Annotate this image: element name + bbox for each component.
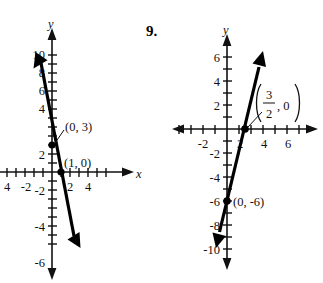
- left-x-tick-neg4: 4: [4, 180, 11, 194]
- right-point-label-three-halves-0: 3 2 , 0: [257, 84, 300, 122]
- right-x-tick-4: 4: [261, 137, 268, 151]
- left-x-tick-2: 2: [67, 180, 73, 194]
- right-point-three-halves-0: [241, 125, 249, 133]
- left-y-tick-4: 4: [39, 102, 46, 116]
- right-y-tick-neg4: -4: [210, 171, 221, 185]
- right-y-tick-4: 4: [214, 75, 221, 89]
- fraction-numerator: 3: [266, 88, 272, 102]
- left-point-0-3: [48, 141, 55, 148]
- left-graph: y x 10 8 6 4 2 -2 -4 -6 4 -2 2 4: [0, 0, 150, 283]
- right-graph-svg: y 6 4 2 -2 -4 -6 -8 -10 -2 2 4 6: [170, 0, 323, 283]
- fraction-rest: , 0: [277, 99, 290, 113]
- right-y-tick-neg6: -6: [210, 195, 220, 209]
- left-x-tick-4: 4: [85, 180, 92, 194]
- fraction-denominator: 2: [266, 107, 272, 121]
- left-x-axis-label: x: [135, 167, 142, 181]
- right-line-series: [213, 51, 267, 248]
- right-point-label-0-neg6: (0, -6): [233, 195, 264, 209]
- right-point-0-neg6: [223, 197, 231, 205]
- left-y-tick-neg6: -6: [35, 256, 45, 270]
- left-y-tick-neg4: -4: [35, 220, 46, 234]
- right-y-axis-label: y: [221, 23, 229, 37]
- right-x-tick-neg2: -2: [198, 137, 208, 151]
- left-point-label-0-3: (0, 3): [65, 120, 92, 134]
- right-x-tick-6: 6: [285, 137, 291, 151]
- left-y-axis-label: y: [46, 17, 54, 31]
- left-y-tick-2: 2: [39, 148, 45, 162]
- left-paren: [257, 84, 262, 122]
- left-graph-svg: y x 10 8 6 4 2 -2 -4 -6 4 -2 2 4: [0, 0, 150, 283]
- right-y-tick-neg2: -2: [210, 147, 220, 161]
- left-x-tick-neg2: -2: [21, 180, 31, 194]
- left-y-tick-neg2: -2: [35, 184, 45, 198]
- exercise-number: 9.: [146, 23, 157, 40]
- right-graph: y 6 4 2 -2 -4 -6 -8 -10 -2 2 4 6: [170, 0, 323, 283]
- right-y-tick-6: 6: [214, 51, 220, 65]
- figure-container: y x 10 8 6 4 2 -2 -4 -6 4 -2 2 4: [0, 0, 323, 283]
- right-y-tick-2: 2: [214, 99, 220, 113]
- right-paren: [295, 84, 300, 122]
- left-point-label-1-0: (1, 0): [64, 156, 91, 170]
